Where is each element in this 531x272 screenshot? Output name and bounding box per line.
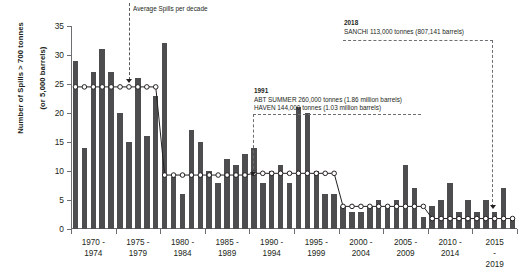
average-marker-1983 (189, 173, 194, 178)
x-axis-label-6: 2000 - 2004 (349, 237, 372, 259)
y-axis-tick-0: 0 (59, 224, 71, 234)
x-axis-label-8: 2010 - 2014 (438, 237, 461, 259)
average-marker-1988 (234, 173, 239, 178)
average-marker-2015 (475, 216, 480, 221)
annotation-average-arrowhead (126, 79, 132, 83)
x-axis-tickmark-4 (249, 229, 250, 234)
average-marker-1989 (243, 173, 248, 178)
average-marker-2016 (483, 216, 488, 221)
average-marker-1971 (82, 85, 87, 90)
average-marker-1984 (198, 173, 203, 178)
annotation-2018-leader (343, 40, 493, 207)
annotation-average-label: Average Spills per decade (133, 5, 208, 12)
annotation-2018: 2018 SANCHI 113,000 tonnes (807,141 barr… (344, 19, 464, 36)
y-axis-tick-30: 30 (55, 50, 71, 60)
average-marker-1982 (180, 173, 185, 178)
average-marker-1981 (171, 173, 176, 178)
oil-spill-chart: Number of Spills > 700 tonnes (or 5,000 … (0, 0, 531, 272)
annotation-2018-line1: SANCHI 113,000 tonnes (807,141 barrels) (344, 28, 464, 35)
average-marker-2017 (492, 216, 497, 221)
annotation-2018-arrowhead (490, 205, 496, 209)
x-axis-label-1: 1975 - 1979 (126, 237, 149, 259)
average-marker-1974 (109, 85, 114, 90)
y-axis-title-line1: Number of Spills > 700 tonnes (16, 22, 25, 134)
average-marker-2010 (430, 216, 435, 221)
x-axis-tickmark-3 (205, 229, 206, 234)
average-marker-1973 (100, 85, 105, 90)
average-marker-1980 (162, 173, 167, 178)
x-axis-label-0: 1970 - 1974 (82, 237, 105, 259)
average-marker-1978 (145, 85, 150, 90)
average-marker-2013 (457, 216, 462, 221)
y-axis-title-line2: (or 5,000 barrels) (38, 47, 47, 110)
average-marker-1976 (127, 85, 132, 90)
x-axis-tickmark-7 (383, 229, 384, 234)
annotation-2018-year: 2018 (344, 19, 464, 28)
average-marker-2019 (510, 216, 515, 221)
y-axis-tick-10: 10 (55, 166, 71, 176)
x-axis-tickmark-1 (116, 229, 117, 234)
x-axis-tickmark-6 (339, 229, 340, 234)
annotation-1991-arrowhead (250, 172, 256, 176)
x-axis-tickmark-9 (472, 229, 473, 234)
average-marker-2014 (466, 216, 471, 221)
x-axis-label-9: 2015 - 2019 (484, 237, 506, 270)
average-marker-1979 (153, 85, 158, 90)
x-axis-label-3: 1985 - 1989 (215, 237, 238, 259)
y-axis-tick-25: 25 (55, 79, 71, 89)
y-axis-tick-35: 35 (55, 21, 71, 31)
x-axis-ticks: 1970 - 19741975 - 19791980 - 19841985 - … (71, 229, 517, 269)
y-axis-tick-20: 20 (55, 108, 71, 118)
y-axis-tick-15: 15 (55, 137, 71, 147)
x-axis-label-7: 2005 - 2009 (394, 237, 417, 259)
average-marker-1985 (207, 173, 212, 178)
x-axis-label-4: 1990 - 1994 (260, 237, 283, 259)
average-marker-1975 (118, 85, 123, 90)
y-axis-title: Number of Spills > 700 tonnes (or 5,000 … (4, 0, 48, 168)
x-axis-tickmark-10 (517, 229, 518, 234)
x-axis-tickmark-5 (294, 229, 295, 234)
average-marker-1986 (216, 173, 221, 178)
average-marker-1972 (91, 85, 96, 90)
x-axis-tickmark-2 (160, 229, 161, 234)
x-axis-label-5: 1995 - 1999 (305, 237, 328, 259)
average-marker-2011 (439, 216, 444, 221)
average-marker-1970 (73, 85, 78, 90)
average-marker-2018 (501, 216, 506, 221)
average-marker-1987 (225, 173, 230, 178)
annotation-average-leader (129, 3, 130, 80)
x-axis-tickmark-0 (71, 229, 72, 234)
x-axis-tickmark-8 (428, 229, 429, 234)
average-marker-2012 (448, 216, 453, 221)
average-marker-1977 (136, 85, 141, 90)
x-axis-label-2: 1980 - 1984 (171, 237, 194, 259)
y-axis-tick-5: 5 (59, 195, 71, 205)
